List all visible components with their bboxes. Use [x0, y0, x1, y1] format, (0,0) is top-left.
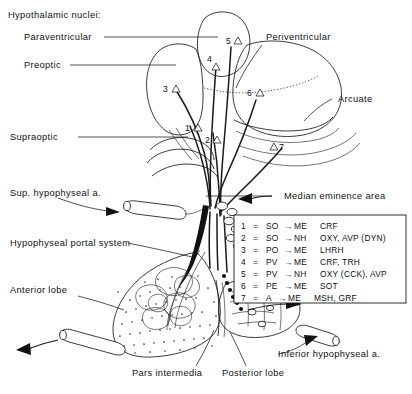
legend-row-origin: SO	[266, 233, 279, 243]
marker-1-number: 1	[185, 123, 190, 133]
legend-row-equals: =	[253, 245, 258, 255]
legend-row-number: 3	[241, 245, 246, 255]
legend-row-target: NH	[294, 269, 307, 279]
legend-row: 3 = PO → ME LHRH	[241, 245, 344, 255]
legend-row-target: ME	[294, 281, 307, 291]
legend-row-equals: =	[253, 233, 258, 243]
legend-row-number: 5	[241, 269, 246, 279]
label-inferior-hypophyseal-artery: Inferior hypophyseal a.	[278, 349, 380, 359]
legend-row-peptides: CRF	[320, 221, 338, 231]
legend-row-peptides: LHRH	[320, 245, 344, 255]
label-arcuate: Arcuate	[338, 94, 373, 104]
legend-row: 1 = SO → ME CRF	[241, 221, 338, 231]
legend-row-origin: PO	[266, 245, 279, 255]
legend-row-origin: PV	[266, 269, 278, 279]
legend-row-number: 2	[241, 233, 246, 243]
label-hypophyseal-portal-system: Hypophyseal portal system	[10, 238, 130, 248]
legend-row-target: ME	[294, 221, 307, 231]
label-preoptic: Preoptic	[24, 60, 61, 70]
legend-row-number: 6	[241, 281, 246, 291]
legend-row-number: 1	[241, 221, 246, 231]
anatomical-figure: 1 2 3 4 5 6 7	[0, 0, 412, 394]
legend-row-target: ME	[294, 257, 307, 267]
legend-row-number: 4	[241, 257, 246, 267]
legend-row-peptides: CRF, TRH	[320, 257, 360, 267]
legend-row-arrow: →	[284, 245, 293, 255]
legend-row-origin: SO	[266, 221, 279, 231]
marker-7-number: 7	[279, 142, 284, 152]
marker-5-number: 5	[226, 36, 231, 46]
legend-row-arrow: →	[284, 221, 293, 231]
legend-row-arrow: →	[284, 281, 293, 291]
hypothalamic-nuclei-heading: Hypothalamic nuclei:	[8, 10, 101, 20]
legend-row: 6 = PE → ME SOT	[241, 281, 338, 291]
legend-row-arrow: →	[284, 257, 293, 267]
legend-row-equals: =	[253, 269, 258, 279]
label-sup-hypophyseal-artery: Sup. hypophyseal a.	[10, 188, 101, 198]
legend-row-arrow: →	[278, 293, 287, 303]
marker-6-number: 6	[247, 88, 252, 98]
caption-text	[8, 386, 10, 394]
figure-caption-clipped	[8, 386, 10, 394]
legend-row-origin: PE	[266, 281, 278, 291]
label-posterior-lobe: Posterior lobe	[222, 368, 284, 378]
legend-row-number: 7	[241, 293, 246, 303]
label-periventricular: Periventricular	[266, 32, 331, 42]
legend-row-peptides: MSH, GRF	[314, 293, 357, 303]
legend-row-peptides: OXY (CCK), AVP	[320, 269, 387, 279]
marker-4-number: 4	[207, 54, 212, 64]
legend-row-equals: =	[253, 281, 258, 291]
marker-3-number: 3	[163, 84, 168, 94]
label-supraoptic: Supraoptic	[10, 132, 58, 142]
label-anterior-lobe: Anterior lobe	[10, 285, 67, 295]
label-paraventricular: Paraventricular	[24, 32, 92, 42]
stalk-fiber-left	[209, 212, 210, 268]
legend-row-origin: A	[266, 293, 272, 303]
legend-row-equals: =	[253, 257, 258, 267]
legend-row-peptides: SOT	[320, 281, 338, 291]
label-pars-intermedia: Pars intermedia	[132, 368, 203, 378]
legend-row-peptides: OXY, AVP (DYN)	[320, 233, 386, 243]
legend-row-origin: PV	[266, 257, 278, 267]
marker-2-number: 2	[205, 135, 210, 145]
legend-row-target: ME	[288, 293, 301, 303]
legend-row-arrow: →	[284, 269, 293, 279]
legend-row-equals: =	[253, 221, 258, 231]
legend-row-equals: =	[253, 293, 258, 303]
legend-row-target: ME	[294, 245, 307, 255]
legend-box: 1 = SO → ME CRF 2 = SO → NH OXY, AVP (DY…	[234, 215, 406, 303]
label-median-eminence-area: Median eminence area	[284, 191, 386, 201]
legend-row-target: NH	[294, 233, 307, 243]
legend-row-arrow: →	[284, 233, 293, 243]
